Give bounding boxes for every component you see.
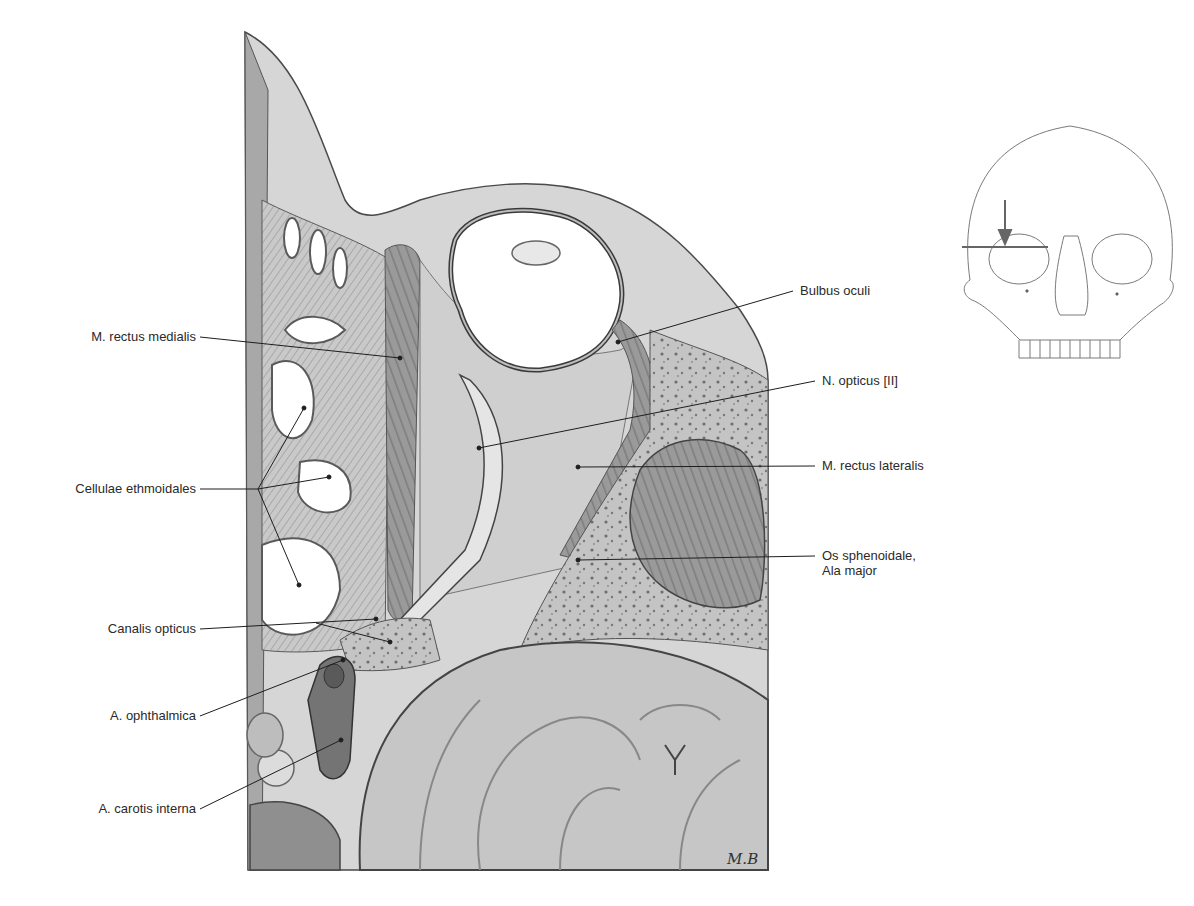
label-os-sphenoidale-line1: Os sphenoidale, [822,548,916,563]
lens-shape [512,241,560,265]
label-os-sphenoidale: Os sphenoidale, Ala major [822,548,916,578]
label-canalis-opticus: Canalis opticus [108,621,196,636]
label-n-opticus: N. opticus [II] [822,373,898,388]
artist-signature: M.B [727,852,758,867]
label-m-rectus-medialis: M. rectus medialis [91,329,196,344]
label-bulbus-oculi: Bulbus oculi [800,283,870,298]
label-a-ophthalmica: A. ophthalmica [110,708,196,723]
label-m-rectus-lateralis: M. rectus lateralis [822,458,924,473]
anatomy-figure: M. rectus medialis Cellulae ethmoidales … [0,0,1194,906]
skull-icon [964,126,1173,358]
label-os-sphenoidale-line2: Ala major [822,563,916,578]
label-cellulae-ethmoidales: Cellulae ethmoidales [75,481,196,496]
orbit-section-illustration [0,0,1194,906]
label-a-carotis-interna: A. carotis interna [98,801,196,816]
a-ophthalmica-shape [324,664,344,688]
section-line-icon [962,200,1048,247]
